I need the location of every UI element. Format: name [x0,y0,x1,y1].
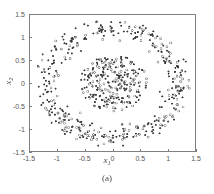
y-axis-label: x2 [4,66,14,96]
x-axis-label-subscript: 1 [107,159,110,166]
y-tick-label: -1.5 [0,149,25,156]
x-tick-mark [85,149,86,152]
y-tick-mark [29,129,32,130]
y-tick-mark [29,152,32,153]
y-axis-label-base: x [3,81,13,85]
x-tick-mark [140,149,141,152]
x-axis-label: x1 [0,156,214,166]
y-tick-label: 1 [0,34,25,41]
y-tick-mark [29,60,32,61]
y-tick-mark [29,106,32,107]
y-tick-mark [29,37,32,38]
plot-frame [29,14,196,152]
y-tick-mark [29,83,32,84]
y-axis-label-subscript: 2 [7,78,14,81]
scatter-plot-canvas [30,15,195,151]
y-tick-label: -0.5 [0,103,25,110]
y-tick-label: 0.5 [0,57,25,64]
x-tick-mark [168,149,169,152]
y-tick-label: 1.5 [0,11,25,18]
figure-panel-a: 1.510.50-0.5-1-1.5 -1.5-1-0.500.511.5 x1… [0,0,214,194]
y-tick-label: -1 [0,126,25,133]
x-tick-mark [196,149,197,152]
y-tick-mark [29,14,32,15]
x-tick-mark [57,149,58,152]
x-tick-mark [113,149,114,152]
figure-caption: (a) [0,174,214,183]
x-tick-mark [29,149,30,152]
